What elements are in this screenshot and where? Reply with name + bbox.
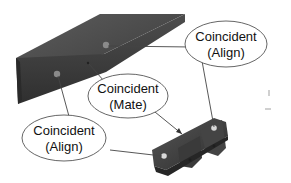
callout-coincident-align-top: Coincident (Align)	[185, 21, 267, 67]
callout-coincident-align-bottom: Coincident (Align)	[22, 115, 106, 161]
bracket-part	[152, 118, 228, 176]
beam-hole-left	[54, 71, 60, 77]
callout-top-line1: Coincident	[195, 29, 257, 44]
callout-bottom-line1: Coincident	[33, 123, 95, 138]
arrowhead-icon	[176, 128, 182, 134]
bracket-hole-left	[161, 153, 167, 159]
axis-triad-icon	[265, 90, 271, 110]
callout-bottom-line2: (Align)	[45, 139, 83, 154]
callout-top-line2: (Align)	[207, 45, 245, 60]
callout-middle-line1: Coincident	[97, 81, 159, 96]
callout-coincident-mate: Coincident (Mate)	[88, 74, 168, 118]
cad-mate-diagram: Coincident (Align) Coincident (Mate) Coi…	[0, 0, 291, 183]
beam-hole-right	[103, 42, 109, 48]
callout-middle-line2: (Mate)	[109, 97, 147, 112]
